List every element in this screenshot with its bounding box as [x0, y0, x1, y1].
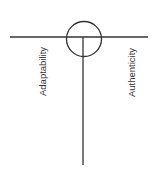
label-authenticity: Authenticity	[126, 48, 137, 97]
label-adaptability: Adaptability	[37, 47, 48, 96]
t-diagram: Adaptability Authenticity	[0, 0, 154, 175]
center-circle	[67, 22, 102, 57]
